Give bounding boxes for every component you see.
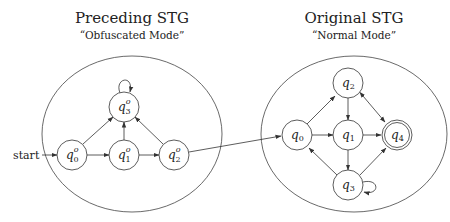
edge-q0-q2: [307, 96, 335, 124]
start-label: start: [13, 149, 40, 162]
state-q0: q0: [282, 120, 312, 150]
state-q2: q2: [333, 68, 363, 98]
edge-q3-q4: [360, 148, 386, 175]
edge-q2o-q0: [189, 136, 281, 152]
state-q4-accepting: q4: [382, 120, 412, 150]
svg-text:qo1: qo1: [118, 145, 131, 164]
svg-text:qo2: qo2: [168, 145, 181, 164]
svg-text:qo0: qo0: [66, 145, 79, 164]
state-q2o: qo2: [159, 140, 189, 170]
edge-q0o-q3o: [83, 117, 113, 144]
edge-q2o-q3o: [135, 117, 163, 144]
edge-q3o-self-loop: [119, 80, 131, 93]
state-q1: q1: [333, 120, 363, 150]
edge-q2-q4: [363, 96, 385, 122]
svg-text:qo3: qo3: [118, 97, 131, 116]
state-q1o: qo1: [109, 140, 139, 170]
edge-q3-q0: [309, 148, 337, 175]
stg-diagram: qo0 qo1 qo2 qo3 start q0 q1 q2 q3: [0, 0, 450, 222]
state-q3: q3: [333, 170, 363, 200]
obfuscated-mode-boundary: [42, 56, 222, 212]
state-q0o: qo0: [57, 140, 87, 170]
edge-q3-self-loop: [363, 181, 376, 192]
state-q3o: qo3: [109, 92, 139, 122]
